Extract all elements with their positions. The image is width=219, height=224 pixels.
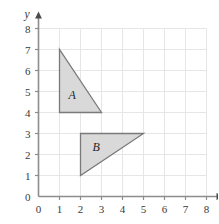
x-axis-tick-label: 6 <box>162 203 168 215</box>
x-axis-tick-label: 7 <box>183 203 189 215</box>
y-axis-tick-label: 5 <box>25 86 31 98</box>
x-axis-tick-label: 2 <box>78 203 84 215</box>
shape-label-b: B <box>93 140 101 154</box>
axis-names: xy <box>24 8 219 213</box>
y-axis-tick-label: 1 <box>25 170 31 182</box>
shape-label-a: A <box>67 88 76 102</box>
x-axis-tick-label: 4 <box>120 203 126 215</box>
y-axis-tick-label: 7 <box>25 44 31 56</box>
y-axis-tick-label: 3 <box>25 128 31 140</box>
y-axis-arrowhead <box>35 12 42 19</box>
y-axis-tick-label: 6 <box>25 65 31 77</box>
x-axis-tick-label: 3 <box>99 203 105 215</box>
x-axis-tick-label: 8 <box>204 203 210 215</box>
y-axis-tick-label: 8 <box>25 23 31 35</box>
y-axis-tick-label: 4 <box>25 107 31 119</box>
axis-tick-labels: 012345678012345678 <box>25 23 210 215</box>
x-axis-arrowhead <box>217 193 219 200</box>
y-axis-tick-label: 2 <box>25 149 31 161</box>
y-axis-name: y <box>24 8 31 21</box>
x-axis-tick-label: 1 <box>57 203 63 215</box>
coordinate-plane-svg: 012345678012345678 xy AB <box>0 0 218 224</box>
coordinate-grid-figure: 012345678012345678 xy AB <box>0 0 218 224</box>
x-axis-tick-label: 0 <box>36 203 42 215</box>
x-axis-tick-label: 5 <box>141 203 147 215</box>
y-axis-tick-label: 0 <box>25 191 31 203</box>
